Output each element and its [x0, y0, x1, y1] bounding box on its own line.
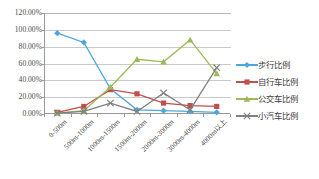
chart-legend: 步行比例自行车比例公交车比例小汽车比例: [236, 56, 319, 124]
data-point: [134, 91, 139, 96]
x-tick: [230, 114, 231, 117]
triangle-marker-icon: [236, 93, 258, 105]
legend-item-2[interactable]: 自行车比例: [236, 73, 319, 90]
x-tick: [177, 114, 178, 117]
cross-marker-icon: [236, 110, 258, 122]
legend-label: 小汽车比例: [258, 111, 298, 121]
diamond-marker-icon: [236, 59, 258, 71]
data-point: [160, 90, 166, 96]
data-point: [107, 100, 113, 106]
series-line: [57, 40, 216, 113]
x-tick: [97, 114, 98, 117]
legend-item-3[interactable]: 公交车比例: [236, 90, 319, 107]
data-point: [160, 108, 166, 114]
legend-item-4[interactable]: 小汽车比例: [236, 107, 319, 124]
series-layer: [44, 13, 230, 114]
x-tick: [44, 114, 45, 117]
legend-symbol: [243, 95, 251, 103]
x-tick: [150, 114, 151, 117]
series-triangle: [54, 37, 220, 116]
legend-label: 步行比例: [258, 60, 290, 70]
data-point: [214, 65, 220, 71]
legend-item-1[interactable]: 步行比例: [236, 56, 319, 73]
square-marker-icon: [236, 76, 258, 88]
series-line: [57, 33, 216, 112]
x-tick: [124, 114, 125, 117]
x-tick: [203, 114, 204, 117]
legend-symbol: [243, 78, 251, 86]
data-point: [161, 100, 166, 105]
legend-symbol: [243, 61, 251, 69]
legend-symbol: [243, 112, 251, 120]
data-point: [54, 30, 60, 36]
data-point: [81, 39, 87, 45]
legend-label: 公交车比例: [258, 94, 298, 104]
legend-label: 自行车比例: [258, 77, 298, 87]
data-point: [214, 104, 219, 109]
line-chart: 120.00%100.00%80.00%60.00%40.00%20.00%0.…: [0, 0, 319, 179]
series-line: [57, 68, 216, 113]
data-point: [187, 37, 194, 43]
x-tick: [71, 114, 72, 117]
